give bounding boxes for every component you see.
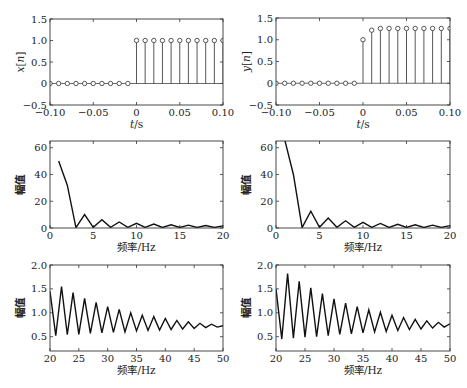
plot-area [50, 287, 223, 336]
subplot-x-spectrum-high: 202530354045500.51.01.52.0频率/Hz幅值 [14, 260, 229, 377]
axes-frame [50, 265, 223, 351]
stem-marker [152, 38, 156, 42]
x-axis-label: 频率/Hz [117, 364, 156, 376]
y-tick-label: 1.5 [31, 14, 47, 25]
stem-marker [74, 81, 78, 85]
stem-marker [178, 38, 182, 42]
stem-marker [117, 81, 121, 85]
subplot-y-spectrum-low: 051015200204060频率/Hz幅值 [240, 140, 456, 253]
axes-frame [276, 141, 450, 228]
y-tick-label: 0 [267, 78, 273, 89]
plot-area [274, 26, 452, 85]
y-tick-label: 40 [34, 169, 47, 180]
y-tick-label: −0.5 [23, 100, 47, 111]
data-line [59, 161, 223, 228]
y-axis-label: 幅值 [14, 297, 26, 318]
stem-marker [195, 38, 199, 42]
x-axis-label: t/s [356, 118, 369, 130]
x-tick-label: 5 [90, 230, 96, 241]
axes-frame [50, 141, 223, 228]
x-tick-label: 15 [400, 230, 413, 241]
x-tick-label: 40 [159, 353, 172, 364]
y-tick-label: 60 [260, 142, 273, 153]
stem-marker [413, 26, 417, 30]
x-tick-label: 30 [328, 353, 341, 364]
x-tick-label: 0.10 [439, 107, 461, 118]
x-tick-label: 0 [47, 230, 53, 241]
stem-marker [100, 81, 104, 85]
x-tick-label: 0 [273, 230, 279, 241]
y-tick-label: 1.5 [257, 13, 273, 24]
stem-marker [291, 81, 295, 85]
stem-marker [317, 81, 321, 85]
stem-marker [56, 81, 60, 85]
stem-marker [422, 26, 426, 30]
y-tick-label: 2.0 [257, 260, 273, 271]
stem-marker [326, 81, 330, 85]
stem-marker [352, 81, 356, 85]
stem-marker [430, 26, 434, 30]
x-tick-label: −0.05 [78, 107, 109, 118]
stem-marker [404, 26, 408, 30]
subplot-x-spectrum-low: 051015200204060频率/Hz幅值 [14, 141, 229, 253]
y-tick-label: −0.5 [249, 100, 273, 111]
stem-marker [343, 81, 347, 85]
stem-marker [370, 28, 374, 32]
x-axis-label: t/s [130, 118, 143, 130]
stem-marker [361, 38, 365, 42]
stem-marker [378, 26, 382, 30]
stem-marker [309, 81, 313, 85]
x-tick-label: 30 [101, 353, 114, 364]
x-axis-label: 频率/Hz [344, 241, 383, 253]
subplot-y-n: −0.10−0.0500.050.10−0.500.51.01.5t/sy[n] [240, 13, 461, 131]
stem-marker [82, 81, 86, 85]
stem-marker [169, 38, 173, 42]
y-tick-label: 0.5 [31, 57, 47, 68]
stem-marker [65, 81, 69, 85]
y-tick-label: 0 [41, 223, 47, 234]
x-tick-label: 10 [357, 230, 370, 241]
x-tick-label: 15 [173, 230, 186, 241]
y-tick-label: 0 [267, 223, 273, 234]
stem-marker [186, 38, 190, 42]
y-axis-label: y[n] [240, 51, 252, 73]
plot-area [276, 274, 450, 339]
y-tick-label: 0.5 [31, 331, 47, 342]
stem-marker [396, 26, 400, 30]
stem-marker [126, 81, 130, 85]
x-tick-label: 0 [133, 107, 139, 118]
data-line [276, 274, 450, 339]
stem-marker [204, 38, 208, 42]
x-tick-label: 35 [357, 353, 370, 364]
x-axis-label: 频率/Hz [344, 364, 383, 376]
data-line [285, 140, 450, 228]
x-tick-label: −0.05 [304, 107, 335, 118]
stem-marker [134, 38, 138, 42]
y-tick-label: 1.0 [257, 34, 273, 45]
y-tick-label: 0 [41, 78, 47, 89]
stem-marker [300, 81, 304, 85]
x-tick-label: 0.10 [212, 107, 234, 118]
y-tick-label: 40 [260, 169, 273, 180]
y-tick-label: 1.0 [31, 35, 47, 46]
data-line [50, 287, 223, 336]
x-tick-label: 20 [217, 230, 230, 241]
x-tick-label: 0 [360, 107, 366, 118]
y-tick-label: 1.0 [31, 307, 47, 318]
y-tick-label: 20 [260, 196, 273, 207]
y-tick-label: 0.5 [257, 56, 273, 67]
x-tick-label: 35 [130, 353, 143, 364]
subplot-x-n: −0.10−0.0500.050.10−0.500.51.01.5t/sx[n] [14, 14, 234, 131]
stem-marker [160, 38, 164, 42]
x-tick-label: 10 [130, 230, 143, 241]
x-tick-label: 40 [386, 353, 399, 364]
y-tick-label: 60 [34, 142, 47, 153]
stem-marker [143, 38, 147, 42]
x-tick-label: 50 [217, 353, 230, 364]
plot-area [48, 38, 225, 85]
x-tick-label: 25 [299, 353, 312, 364]
x-tick-label: 0.05 [169, 107, 191, 118]
y-axis-label: 幅值 [14, 174, 26, 195]
y-tick-label: 1.5 [257, 283, 273, 294]
y-axis-label: x[n] [14, 52, 26, 73]
